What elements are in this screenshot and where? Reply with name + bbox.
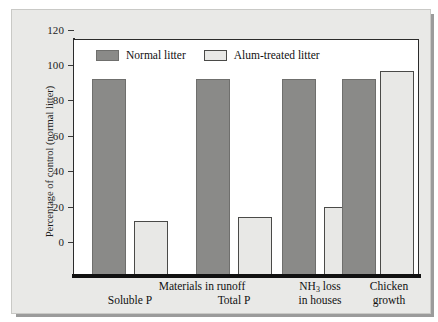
y-tick-mark-120 bbox=[68, 30, 74, 31]
x-axis-labels: Materials in runoff Soluble P Total P NH… bbox=[74, 280, 419, 322]
plot-area: Normal litter Alum-treated litter bbox=[74, 39, 419, 275]
x-axis-label-growth: growth bbox=[339, 294, 438, 307]
y-axis-title: Percentage of control (normal litter) bbox=[44, 62, 55, 262]
figure-root: 120 100 80 60 40 20 0 Percentage of cont… bbox=[0, 0, 438, 322]
bar-alum-soluble-p bbox=[134, 221, 168, 276]
x-axis-label-chicken: Chicken bbox=[339, 280, 438, 293]
bar-alum-chicken-growth bbox=[380, 71, 414, 276]
x-axis-line bbox=[72, 274, 421, 278]
x-axis-label-total-p: Total P bbox=[184, 294, 284, 307]
x-axis-label-soluble-p: Soluble P bbox=[80, 294, 180, 307]
bar-normal-chicken-growth bbox=[342, 79, 376, 276]
bar-normal-total-p bbox=[196, 79, 230, 276]
bars-layer bbox=[74, 40, 419, 276]
bar-normal-soluble-p bbox=[92, 79, 126, 276]
x-axis-span-label-materials-in-runoff: Materials in runoff bbox=[112, 280, 292, 292]
nh3-subscript: 3 bbox=[316, 285, 320, 294]
bar-normal-nh3-loss bbox=[282, 79, 316, 276]
bar-alum-total-p bbox=[238, 217, 272, 276]
y-tick-label-120: 120 bbox=[36, 25, 64, 36]
figure-panel: 120 100 80 60 40 20 0 Percentage of cont… bbox=[11, 9, 431, 314]
